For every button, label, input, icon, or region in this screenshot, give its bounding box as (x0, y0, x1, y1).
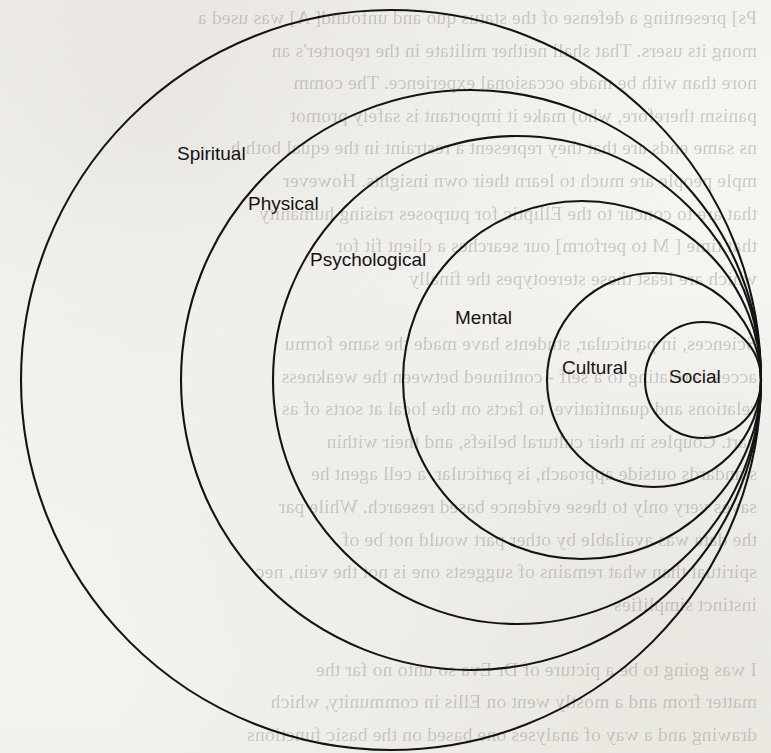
scanned-page: Ps] presenting a defense of the status q… (0, 0, 771, 753)
label-spiritual: Spiritual (177, 144, 246, 163)
circle-cultural (547, 273, 761, 487)
label-psychological: Psychological (310, 250, 426, 269)
label-mental: Mental (455, 308, 512, 327)
circle-group (21, 10, 761, 750)
label-social: Social (669, 367, 721, 386)
nested-circles-diagram: SpiritualPhysicalPsychologicalMentalCult… (0, 0, 771, 753)
circle-spiritual (21, 10, 761, 750)
label-physical: Physical (248, 194, 319, 213)
label-cultural: Cultural (562, 358, 627, 377)
circles-svg (0, 0, 771, 753)
